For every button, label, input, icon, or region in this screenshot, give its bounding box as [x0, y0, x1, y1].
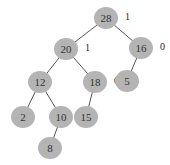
tree-node: 2 — [11, 106, 35, 128]
tree-node: 160 — [129, 37, 165, 59]
tree-node: 5 — [115, 70, 139, 92]
node-label: 16 — [136, 42, 148, 54]
node-label: 8 — [47, 142, 53, 154]
node-label: 5 — [124, 75, 130, 87]
node-label: 28 — [101, 12, 113, 24]
node-label: 18 — [90, 76, 102, 88]
balance-factor-label: 1 — [125, 11, 130, 22]
node-label: 15 — [81, 111, 93, 123]
tree-node: 10 — [49, 106, 73, 128]
node-label: 20 — [61, 43, 73, 55]
tree-node: 8 — [38, 137, 62, 159]
balance-factor-label: 1 — [85, 42, 90, 53]
tree-node: 281 — [94, 7, 130, 29]
node-label: 2 — [20, 111, 26, 123]
tree-node: 15 — [74, 106, 98, 128]
nodes-group: 281201160121805210158 — [11, 7, 165, 159]
node-label: 10 — [56, 111, 68, 123]
tree-node: 201 — [54, 38, 90, 60]
binary-tree-diagram: 281201160121805210158 — [0, 0, 170, 165]
balance-factor-label: 0 — [160, 41, 165, 52]
node-label: 12 — [35, 76, 46, 88]
tree-node: 12 — [28, 71, 52, 93]
tree-node: 180 — [83, 71, 119, 93]
